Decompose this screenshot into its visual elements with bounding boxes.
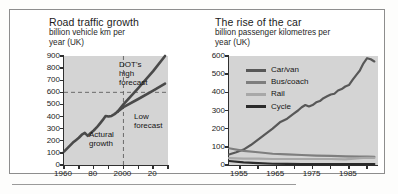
chart-left-title: Road traffic growth <box>49 16 194 28</box>
chart-left-subtitle-line2: year (UK) <box>49 38 194 48</box>
y-tick <box>225 146 229 147</box>
y-tick <box>60 116 64 117</box>
horizontal-rule <box>12 184 296 185</box>
legend-item-bus-coach: Bus/coach <box>246 77 308 87</box>
y-tick <box>60 80 64 81</box>
legend-swatch-icon <box>246 93 266 96</box>
x-tick-label: 1985 <box>339 169 357 178</box>
legend-item-car-van: Car/van <box>246 65 308 75</box>
y-tick-label: 500 <box>47 100 60 108</box>
chart-right-subtitle-line1: billion passenger kilometres per <box>215 28 387 38</box>
chart-left-series-layer <box>64 56 168 165</box>
chart-right-subtitle-line2: year (UK) <box>215 38 387 48</box>
x-tick-label: 1960 <box>54 169 72 178</box>
y-tick <box>60 128 64 129</box>
legend-label: Rail <box>271 90 285 98</box>
y-tick-label: 200 <box>212 125 225 133</box>
y-tick-label: 400 <box>212 88 225 96</box>
chart-right-title: The rise of the car <box>215 16 387 28</box>
x-tick-label: 80 <box>88 169 97 178</box>
x-tick-label: 20 <box>148 169 157 178</box>
legend-label: Cycle <box>271 103 291 111</box>
y-tick-label: 400 <box>47 113 60 121</box>
annotation-low-forecast: Low forecast <box>134 112 162 130</box>
y-tick <box>60 152 64 153</box>
x-tick-label: 1965 <box>266 169 284 178</box>
legend-label: Car/van <box>271 66 299 74</box>
chart-left-subtitle-line1: billion vehicle km per <box>49 28 194 38</box>
legend-swatch-icon <box>246 81 266 84</box>
y-tick <box>225 92 229 93</box>
y-tick <box>225 110 229 111</box>
annotation-high-forecast-line1: DOT's <box>119 60 141 69</box>
y-tick <box>60 55 64 56</box>
annotation-low-forecast-line1: Low <box>134 112 149 121</box>
y-tick-label: 700 <box>47 76 60 84</box>
y-tick-label: 900 <box>47 52 60 60</box>
annotation-high-forecast-line2: high <box>119 69 134 78</box>
series-line <box>117 84 165 112</box>
series-line <box>229 158 374 160</box>
figure-page: Road traffic growth billion vehicle km p… <box>0 0 398 194</box>
y-tick-label: 300 <box>47 125 60 133</box>
x-tick-label: 1975 <box>303 169 321 178</box>
series-line <box>229 161 374 164</box>
annotation-high-forecast-line3: forecast <box>119 78 147 87</box>
chart-left-x-axis-labels: 196080200020 <box>50 169 180 179</box>
y-tick <box>60 140 64 141</box>
y-tick-label: 200 <box>47 137 60 145</box>
legend-item-rail: Rail <box>246 89 308 99</box>
annotation-high-forecast: DOT's high forecast <box>119 60 147 88</box>
y-tick <box>60 104 64 105</box>
figure-container: Road traffic growth billion vehicle km p… <box>9 9 385 174</box>
chart-left-plot-area: DOT's high forecast Low forecast Actural… <box>63 56 168 166</box>
annotation-actual-growth-line2: growth <box>89 139 113 148</box>
chart-road-traffic-growth: Road traffic growth billion vehicle km p… <box>10 10 198 175</box>
annotation-actual-growth-line1: Actural <box>89 130 114 139</box>
y-tick <box>225 73 229 74</box>
chart-right-x-axis-labels: 1955196519751985 <box>216 169 386 179</box>
legend-item-cycle: Cycle <box>246 102 308 112</box>
annotation-actual-growth: Actural growth <box>89 130 114 148</box>
chart-rise-of-the-car: The rise of the car billion passenger ki… <box>198 10 386 175</box>
y-tick <box>225 164 229 165</box>
legend-label: Bus/coach <box>271 78 308 86</box>
y-tick <box>60 67 64 68</box>
annotation-low-forecast-line2: forecast <box>134 121 162 130</box>
chart-right-plot-area: Car/vanBus/coachRailCycle <box>228 56 378 166</box>
y-tick-label: 500 <box>212 70 225 78</box>
y-tick <box>225 128 229 129</box>
chart-left-titles: Road traffic growth billion vehicle km p… <box>49 16 194 48</box>
chart-right-titles: The rise of the car billion passenger ki… <box>215 16 387 48</box>
x-tick-label: 1955 <box>230 169 248 178</box>
y-tick-label: 800 <box>47 64 60 72</box>
series-line <box>229 148 374 157</box>
y-tick-label: 300 <box>212 107 225 115</box>
y-tick-label: 600 <box>47 88 60 96</box>
legend-swatch-icon <box>246 105 266 108</box>
y-tick-label: 600 <box>212 52 225 60</box>
y-tick-label: 100 <box>212 143 225 151</box>
y-tick <box>60 92 64 93</box>
x-tick-label: 2000 <box>114 169 132 178</box>
chart-right-legend: Car/vanBus/coachRailCycle <box>246 65 308 114</box>
legend-swatch-icon <box>246 69 266 72</box>
y-tick <box>225 55 229 56</box>
y-tick-label: 100 <box>47 149 60 157</box>
